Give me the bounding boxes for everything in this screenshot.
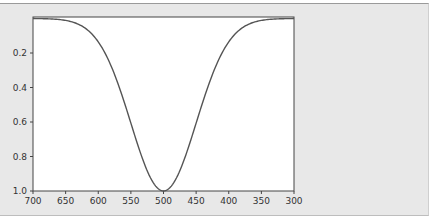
x-tick-label: 450 <box>188 196 205 206</box>
x-tick-label: 700 <box>24 196 41 206</box>
line-chart: 700650600550500450400350300 0.20.40.60.8… <box>0 0 432 218</box>
x-axis-ticks: 700650600550500450400350300 <box>24 191 302 206</box>
x-tick-label: 550 <box>122 196 139 206</box>
x-tick-label: 400 <box>220 196 237 206</box>
y-tick-label: 0.6 <box>13 117 28 127</box>
y-tick-label: 0.4 <box>13 83 28 93</box>
y-tick-label: 0.8 <box>13 152 28 162</box>
x-tick-label: 500 <box>155 196 172 206</box>
x-tick-label: 600 <box>90 196 107 206</box>
x-tick-label: 350 <box>253 196 270 206</box>
x-tick-label: 650 <box>57 196 74 206</box>
y-axis-ticks: 0.20.40.60.81.0 <box>13 48 33 196</box>
x-tick-label: 300 <box>285 196 302 206</box>
plot-area <box>33 17 294 191</box>
y-tick-label: 1.0 <box>13 186 28 196</box>
y-tick-label: 0.2 <box>13 48 27 58</box>
